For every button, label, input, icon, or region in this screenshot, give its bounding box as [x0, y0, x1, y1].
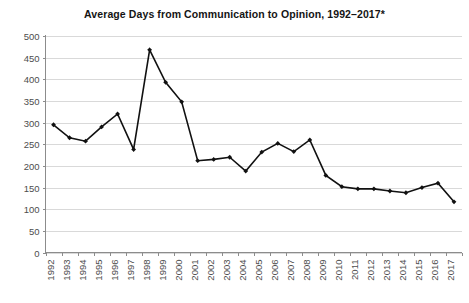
x-axis-tick-label: 2013	[381, 260, 392, 281]
data-point-marker	[131, 147, 136, 152]
y-axis-tick-label: 450	[24, 53, 40, 64]
x-axis-tick-label: 1999	[157, 260, 168, 281]
y-axis-tick-label: 200	[24, 161, 40, 172]
data-point-marker	[371, 186, 376, 191]
x-axis-tick-label: 2011	[349, 260, 360, 280]
x-axis-tick-label: 2004	[237, 260, 248, 281]
x-axis-tick-label: 2012	[365, 260, 376, 281]
data-point-marker	[388, 189, 393, 194]
y-axis-tick-label: 300	[24, 118, 40, 129]
x-axis-tick-label: 1995	[93, 260, 104, 281]
x-axis-tick-label: 2006	[269, 260, 280, 281]
x-axis-tick-label: 1998	[141, 260, 152, 281]
y-axis-tick-label: 50	[29, 226, 40, 237]
x-axis-tick-label: 1997	[125, 260, 136, 281]
y-axis-tick-label: 250	[24, 139, 40, 150]
gridlines-group	[46, 37, 463, 254]
x-axis-tick-label: 2003	[221, 260, 232, 281]
x-axis-tick-label: 2005	[253, 260, 264, 281]
y-axis-tick-label: 100	[24, 204, 40, 215]
x-axis-tick-label: 2009	[317, 260, 328, 281]
x-axis-tick-label: 2000	[173, 260, 184, 281]
y-axis-tick-labels: 050100150200250300350400450500	[24, 31, 40, 259]
x-axis-tick-label: 2014	[397, 260, 408, 281]
x-axis-tick-label: 1993	[61, 260, 72, 281]
data-point-marker	[355, 186, 360, 191]
x-axis-tick-label: 2016	[429, 260, 440, 281]
y-axis-tick-label: 0	[34, 248, 39, 259]
x-axis-tick-label: 1996	[109, 260, 120, 281]
y-axis-tick-label: 500	[24, 31, 40, 42]
chart-container: Average Days from Communication to Opini…	[0, 0, 469, 303]
x-axis-tick-label: 2017	[445, 260, 456, 281]
x-axis-tick-labels: 1992199319941995199619971998199920002001…	[45, 260, 456, 281]
line-chart-plot: 050100150200250300350400450500 199219931…	[0, 0, 469, 303]
y-axis-tick-label: 400	[24, 74, 40, 85]
y-axis	[43, 35, 46, 254]
x-axis-tick-label: 1992	[45, 260, 56, 281]
y-axis-tick-label: 350	[24, 96, 40, 107]
data-point-marker	[404, 190, 409, 195]
x-axis-tick-label: 2007	[285, 260, 296, 281]
x-axis-tick-label: 1994	[77, 260, 88, 281]
y-axis-tick-label: 150	[24, 183, 40, 194]
x-axis-tick-label: 2015	[413, 260, 424, 281]
data-point-markers	[51, 47, 456, 204]
x-axis-tick-label: 2002	[205, 260, 216, 281]
series-polyline	[54, 50, 454, 202]
x-axis-tick-label: 2010	[333, 260, 344, 281]
data-point-marker	[195, 158, 200, 163]
x-axis-tick-label: 2001	[189, 260, 200, 281]
data-point-marker	[211, 157, 216, 162]
data-series-line	[54, 50, 454, 202]
x-axis-tick-label: 2008	[301, 260, 312, 281]
data-point-marker	[420, 185, 425, 190]
